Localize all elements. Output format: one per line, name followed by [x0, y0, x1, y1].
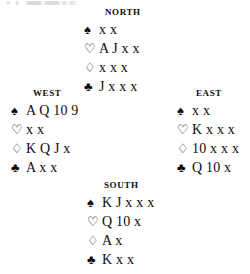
heart-icon: ♡	[11, 120, 26, 139]
diamond-icon: ♢	[84, 58, 99, 77]
cards-north-diamonds: x x x	[99, 58, 128, 77]
spade-icon: ♠	[177, 101, 192, 120]
cards-south-clubs: K x x	[102, 250, 134, 269]
suit-row-south-hearts: ♡ Q 10 x	[87, 212, 154, 231]
suit-rows-north: ♠ x x ♡ A J x x ♢ x x x ♣ J x x x	[84, 20, 141, 96]
hand-label-west: WEST	[33, 88, 79, 99]
hand-label-north: NORTH	[105, 7, 141, 18]
cards-south-diamonds: A x	[102, 231, 122, 250]
suit-row-east-clubs: ♣ Q 10 x	[177, 158, 239, 177]
club-icon: ♣	[11, 158, 26, 177]
suit-rows-west: ♠ A Q 10 9 ♡ x x ♢ K Q J x ♣ A x x	[11, 101, 79, 177]
hand-east: EAST ♠ x x ♡ K x x x ♢ 10 x x x ♣ Q 10 x	[177, 88, 239, 177]
diamond-icon: ♢	[87, 231, 102, 250]
suit-row-east-diamonds: ♢ 10 x x x	[177, 139, 239, 158]
cards-west-clubs: A x x	[26, 158, 57, 177]
suit-rows-south: ♠ K J x x x ♡ Q 10 x ♢ A x ♣ K x x	[87, 193, 154, 269]
scan-artifact	[6, 1, 80, 5]
spade-icon: ♠	[11, 101, 26, 120]
cards-west-spades: A Q 10 9	[26, 101, 79, 120]
club-icon: ♣	[177, 158, 192, 177]
heart-icon: ♡	[87, 212, 102, 231]
suit-row-north-hearts: ♡ A J x x	[84, 39, 141, 58]
cards-north-hearts: A J x x	[99, 39, 140, 58]
cards-south-spades: K J x x x	[102, 193, 154, 212]
suit-row-east-hearts: ♡ K x x x	[177, 120, 239, 139]
cards-west-diamonds: K Q J x	[26, 139, 71, 158]
hand-label-east: EAST	[196, 88, 239, 99]
hand-west: WEST ♠ A Q 10 9 ♡ x x ♢ K Q J x ♣ A x x	[11, 88, 79, 177]
suit-row-north-clubs: ♣ J x x x	[84, 77, 141, 96]
suit-row-west-spades: ♠ A Q 10 9	[11, 101, 79, 120]
bridge-deal-diagram: NORTH ♠ x x ♡ A J x x ♢ x x x ♣ J x x x …	[0, 0, 250, 274]
spade-icon: ♠	[84, 20, 99, 39]
hand-label-south: SOUTH	[104, 180, 154, 191]
suit-row-west-clubs: ♣ A x x	[11, 158, 79, 177]
diamond-icon: ♢	[11, 139, 26, 158]
heart-icon: ♡	[84, 39, 99, 58]
suit-row-west-diamonds: ♢ K Q J x	[11, 139, 79, 158]
suit-row-south-diamonds: ♢ A x	[87, 231, 154, 250]
cards-east-hearts: K x x x	[192, 120, 235, 139]
cards-east-clubs: Q 10 x	[192, 158, 231, 177]
spade-icon: ♠	[87, 193, 102, 212]
cards-north-clubs: J x x x	[99, 77, 137, 96]
club-icon: ♣	[87, 250, 102, 269]
diamond-icon: ♢	[177, 139, 192, 158]
suit-row-north-spades: ♠ x x	[84, 20, 141, 39]
suit-row-east-spades: ♠ x x	[177, 101, 239, 120]
cards-north-spades: x x	[99, 20, 117, 39]
suit-row-south-spades: ♠ K J x x x	[87, 193, 154, 212]
suit-row-south-clubs: ♣ K x x	[87, 250, 154, 269]
club-icon: ♣	[84, 77, 99, 96]
hand-north: NORTH ♠ x x ♡ A J x x ♢ x x x ♣ J x x x	[84, 7, 141, 96]
suit-row-west-hearts: ♡ x x	[11, 120, 79, 139]
cards-east-diamonds: 10 x x x	[192, 139, 239, 158]
cards-west-hearts: x x	[26, 120, 44, 139]
suit-rows-east: ♠ x x ♡ K x x x ♢ 10 x x x ♣ Q 10 x	[177, 101, 239, 177]
heart-icon: ♡	[177, 120, 192, 139]
hand-south: SOUTH ♠ K J x x x ♡ Q 10 x ♢ A x ♣ K x x	[87, 180, 154, 269]
cards-east-spades: x x	[192, 101, 210, 120]
suit-row-north-diamonds: ♢ x x x	[84, 58, 141, 77]
cards-south-hearts: Q 10 x	[102, 212, 141, 231]
